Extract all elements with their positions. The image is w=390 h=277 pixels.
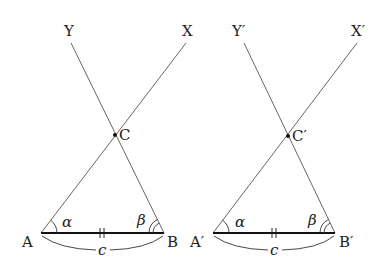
ray-b-prime-to-y-prime <box>244 43 335 233</box>
right-figure: Y′ X′ C′ A′ B′ α β c <box>189 22 366 259</box>
ray-b-to-y <box>71 43 164 233</box>
ray-a-to-x <box>41 43 186 233</box>
label-side-c-prime: c <box>270 241 279 259</box>
label-c-prime-point: C′ <box>292 127 307 145</box>
point-c-prime-dot <box>286 134 290 138</box>
length-c-prime-brace <box>214 236 268 250</box>
label-b: B <box>167 233 178 251</box>
point-c-dot <box>113 133 117 137</box>
left-figure: Y X C A B α β c <box>21 22 193 259</box>
label-alpha: α <box>62 213 72 231</box>
label-beta-prime: β <box>307 211 317 229</box>
label-y: Y <box>63 22 75 40</box>
ray-a-prime-to-x-prime <box>213 43 357 233</box>
label-c-point: C <box>119 126 130 144</box>
label-a-prime: A′ <box>189 233 205 251</box>
label-beta: β <box>136 211 146 229</box>
label-y-prime: Y′ <box>231 22 246 40</box>
angle-alpha-arc <box>51 220 57 233</box>
label-a: A <box>21 233 33 251</box>
label-b-prime: B′ <box>339 233 354 251</box>
label-x: X <box>182 22 193 40</box>
length-c-prime-brace-right <box>282 236 334 250</box>
length-c-brace <box>42 236 96 250</box>
label-x-prime: X′ <box>351 22 366 40</box>
label-side-c: c <box>98 241 107 259</box>
label-alpha-prime: α <box>235 213 245 231</box>
angle-beta-arc-inner <box>153 223 159 233</box>
length-c-brace-right <box>110 236 163 250</box>
angle-alpha-prime-arc <box>223 220 229 233</box>
angle-beta-prime-arc-inner <box>324 223 330 233</box>
congruent-triangles-diagram: Y X C A B α β c Y′ X′ C′ A′ B′ α β c <box>0 0 390 277</box>
